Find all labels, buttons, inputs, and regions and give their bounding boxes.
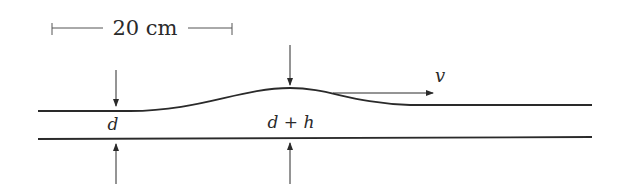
velocity-label: v [435,65,445,86]
water-surface [38,88,592,111]
scale-bar: 20 cm [52,16,232,40]
depth-plus-height-label: d + h [268,112,315,132]
wave-diagram: 20 cm d d + h v [0,0,625,192]
scale-bar-label: 20 cm [112,16,177,40]
channel-bottom [38,137,592,139]
depth-label: d [108,114,119,134]
diagram-svg: 20 cm d d + h v [0,0,625,192]
